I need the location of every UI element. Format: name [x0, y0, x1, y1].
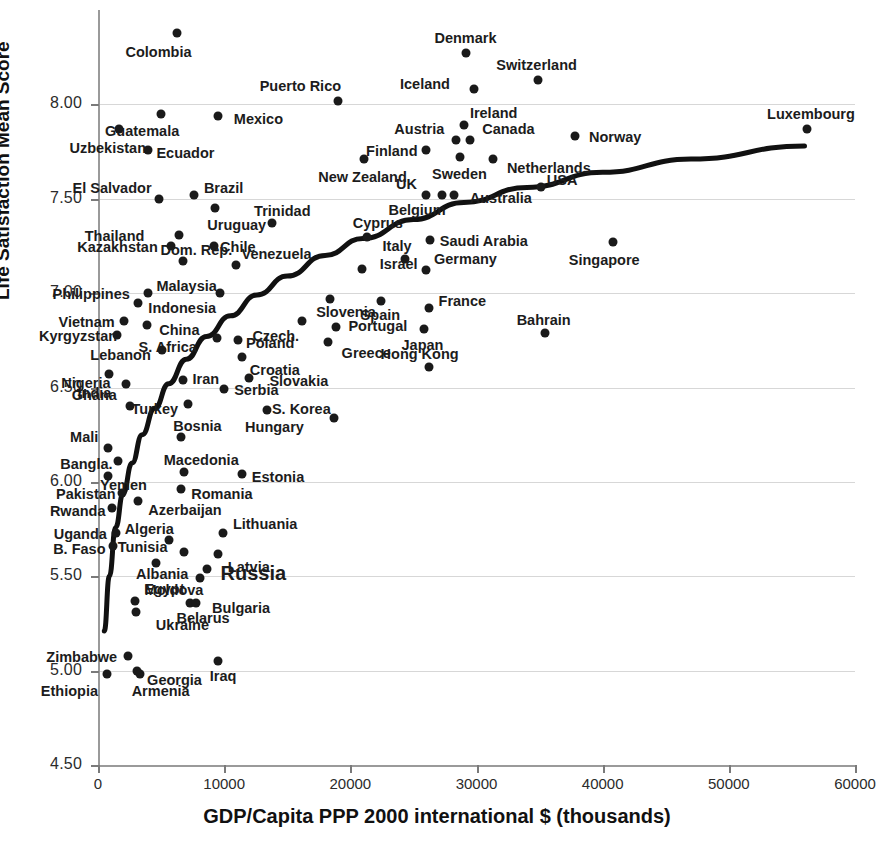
point-label: Hungary: [245, 420, 304, 435]
x-tick-label: 20000: [329, 775, 371, 792]
x-tick: [350, 765, 352, 773]
data-point: [117, 489, 126, 498]
x-tick: [477, 765, 479, 773]
point-label: Armenia: [132, 684, 190, 699]
data-point: [109, 542, 118, 551]
data-point: [216, 289, 225, 298]
point-label: Iraq: [210, 669, 237, 684]
point-label: Ireland: [470, 106, 518, 121]
point-label: France: [439, 294, 487, 309]
y-tick-label: 5.50: [34, 566, 82, 584]
data-point: [422, 190, 431, 199]
data-point: [114, 457, 123, 466]
plot-area: ColombiaDenmarkSwitzerlandIcelandPuerto …: [98, 10, 855, 765]
point-label: USA: [547, 173, 578, 188]
data-point: [462, 49, 471, 58]
data-point: [120, 317, 129, 326]
x-tick-label: 40000: [582, 775, 624, 792]
point-label: Malaysia: [156, 279, 216, 294]
data-point: [245, 374, 254, 383]
point-label: Lithuania: [233, 517, 297, 532]
point-label: Luxembourg: [767, 107, 855, 122]
data-point: [135, 670, 144, 679]
data-point: [143, 321, 152, 330]
point-label: Mali: [70, 430, 98, 445]
point-label: Bangla.: [60, 457, 112, 472]
data-point: [424, 304, 433, 313]
point-label: Pakistan: [56, 487, 116, 502]
data-point: [183, 400, 192, 409]
point-label: Portugal: [348, 319, 407, 334]
point-label: Uruguay: [207, 218, 266, 233]
point-label: Poland: [246, 336, 294, 351]
point-label: El Salvador: [73, 181, 152, 196]
data-point: [452, 136, 461, 145]
point-label: Finland: [366, 144, 418, 159]
x-tick-label: 0: [94, 775, 102, 792]
point-label: Ethiopia: [41, 684, 98, 699]
data-point: [237, 353, 246, 362]
point-label: Uzbekistan: [69, 141, 146, 156]
data-point: [179, 547, 188, 556]
point-label: Iceland: [400, 77, 450, 92]
x-tick: [855, 765, 857, 773]
point-label: Austria: [394, 122, 444, 137]
point-label: Indonesia: [148, 301, 216, 316]
data-point: [268, 219, 277, 228]
point-label: Dom. Rep.: [161, 243, 233, 258]
point-label: China: [159, 323, 199, 338]
data-point: [144, 145, 153, 154]
point-label: Zimbabwe: [46, 650, 117, 665]
y-tick-label: 8.00: [34, 94, 82, 112]
data-point: [422, 145, 431, 154]
data-point: [459, 121, 468, 130]
point-label: Romania: [191, 487, 252, 502]
data-point: [360, 155, 369, 164]
data-point: [449, 190, 458, 199]
data-point: [212, 334, 221, 343]
point-label: S. Korea: [272, 402, 331, 417]
point-label: Azerbaijan: [148, 503, 221, 518]
point-label: Macedonia: [164, 453, 239, 468]
data-point: [570, 132, 579, 141]
point-label: Colombia: [125, 45, 191, 60]
data-point: [104, 443, 113, 452]
data-point: [211, 204, 220, 213]
point-label: Iran: [193, 372, 220, 387]
point-label: Denmark: [434, 31, 496, 46]
point-label: Ecuador: [156, 146, 214, 161]
x-tick-label: 10000: [203, 775, 245, 792]
data-point: [173, 28, 182, 37]
x-tick: [224, 765, 226, 773]
data-point: [234, 336, 243, 345]
data-point: [202, 564, 211, 573]
point-label: Albania: [136, 567, 188, 582]
data-point: [220, 385, 229, 394]
point-label: Switzerland: [496, 58, 577, 73]
data-point: [540, 328, 549, 337]
data-point: [326, 294, 335, 303]
point-label: Uganda: [54, 527, 107, 542]
data-point: [134, 496, 143, 505]
point-label: Italy: [383, 239, 412, 254]
point-label: Turkey: [132, 402, 178, 417]
x-tick: [98, 765, 100, 773]
data-point: [158, 345, 167, 354]
data-point: [174, 230, 183, 239]
data-point: [362, 232, 371, 241]
data-point: [121, 379, 130, 388]
point-label: Sweden: [432, 167, 487, 182]
data-point: [131, 608, 140, 617]
data-point: [456, 153, 465, 162]
point-label: Trinidad: [254, 204, 310, 219]
data-point: [179, 468, 188, 477]
point-label: Canada: [482, 122, 534, 137]
data-point: [438, 190, 447, 199]
x-tick-label: 60000: [834, 775, 876, 792]
point-label: Lebanon: [90, 348, 150, 363]
data-point: [536, 183, 545, 192]
point-label: Kyrgyzstan: [39, 329, 117, 344]
point-label: Norway: [589, 130, 641, 145]
point-label: New Zealand: [318, 170, 407, 185]
